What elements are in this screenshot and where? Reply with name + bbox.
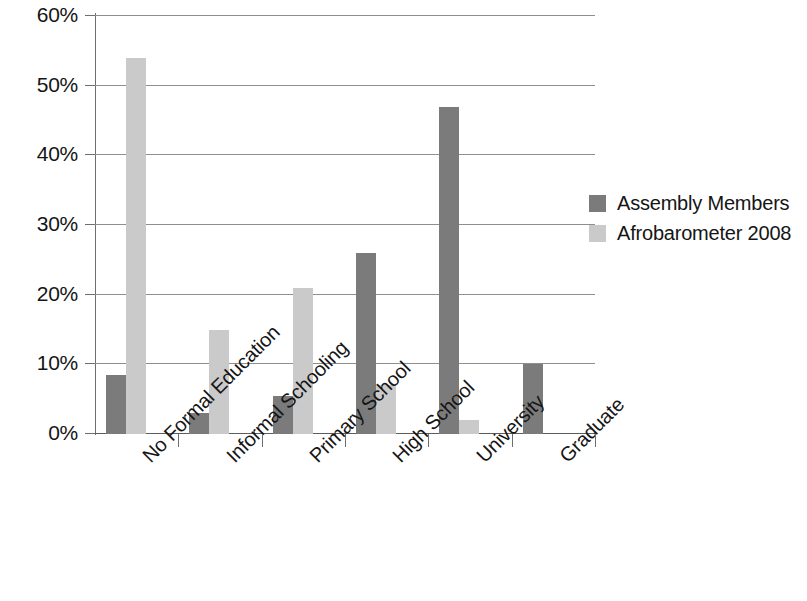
y-axis-tick-mark [85,363,95,364]
y-axis-tick-label: 20% [0,283,78,304]
x-axis-tick-mark [262,434,263,447]
y-axis-tick-label: 10% [0,352,78,373]
y-axis-tick-mark [85,154,95,155]
legend-item: Afrobarometer 2008 [589,218,804,248]
bar-chart: 60%50%40%30%20%10%0% No Formal Education… [0,0,807,601]
x-axis-tick-mark [178,434,179,447]
legend-label: Afrobarometer 2008 [617,222,791,244]
bar [459,420,479,434]
bar [106,375,126,434]
legend-item: Assembly Members [589,188,804,218]
x-axis-tick-mark [512,434,513,447]
y-axis-tick-mark [85,294,95,295]
x-axis-tick-mark [595,434,596,447]
bar [126,58,146,434]
y-axis-tick-label: 60% [0,4,78,25]
y-axis-tick-label: 40% [0,143,78,164]
y-axis-label-group: 60%50%40%30%20%10%0% [0,0,78,450]
y-axis-tick-mark [85,433,95,434]
legend-color-swatch [589,225,606,242]
x-axis-tick-mark [428,434,429,447]
y-axis-tick-mark [85,85,95,86]
y-axis-tick-mark [85,15,95,16]
bar [293,288,313,434]
legend-label: Assembly Members [617,192,789,214]
y-axis-tick-mark [85,224,95,225]
y-axis-tick-label: 30% [0,213,78,234]
y-axis-tick-label: 50% [0,74,78,95]
bars-layer [95,0,595,434]
x-axis-label-group: No Formal EducationInformal SchoolingPri… [0,433,807,601]
x-axis-tick-mark [345,434,346,447]
legend-color-swatch [589,195,606,212]
chart-legend: Assembly MembersAfrobarometer 2008 [589,188,804,248]
